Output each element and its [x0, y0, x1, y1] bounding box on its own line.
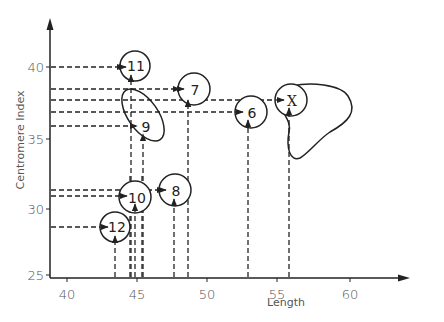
y-axis-label: Centromere Index: [14, 90, 27, 190]
x-axis-arrow-icon: [398, 275, 410, 282]
x-tick-45: 45: [129, 287, 146, 302]
point-label-x: X: [287, 93, 297, 109]
x-tick-40: 40: [59, 287, 76, 302]
point-label-9: 9: [142, 119, 151, 135]
y-tick-30: 30: [27, 202, 44, 217]
point-label-10: 10: [128, 190, 146, 206]
point-label-6: 6: [248, 105, 257, 121]
scatter-chart: 40 45 50 55 60 25 30 35 40 Length Centro…: [0, 0, 444, 322]
y-tick-35: 35: [27, 132, 44, 147]
y-tick-labels: 25 30 35 40: [27, 60, 44, 283]
axes: [47, 18, 411, 282]
y-axis-arrow-icon: [47, 18, 54, 30]
x-tick-50: 50: [199, 287, 216, 302]
point-label-12: 12: [108, 219, 126, 235]
x-tick-labels: 40 45 50 55 60: [59, 287, 359, 302]
point-label-8: 8: [172, 183, 181, 199]
x-axis-label: Length: [267, 296, 305, 309]
y-tick-25: 25: [27, 268, 44, 283]
point-label-7: 7: [191, 82, 200, 98]
point-label-11: 11: [127, 58, 145, 74]
y-tick-40: 40: [27, 60, 44, 75]
x-tick-60: 60: [342, 287, 359, 302]
